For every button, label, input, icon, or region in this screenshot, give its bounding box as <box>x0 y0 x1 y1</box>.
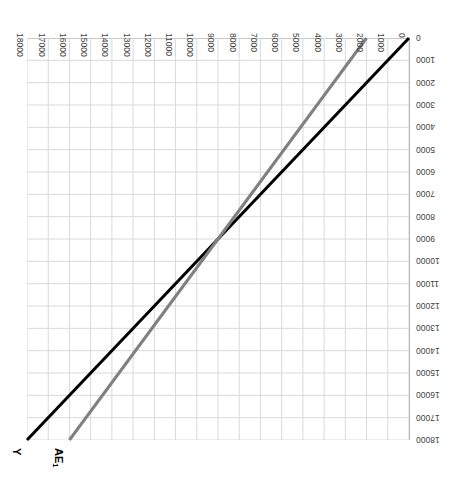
x-tick-label: 5000 <box>292 33 301 52</box>
x-tick-label: 10000 <box>186 33 195 57</box>
y-tick-label: 13000 <box>416 324 454 333</box>
curve-label-subscript: 1 <box>51 463 60 467</box>
x-tick-label: 9000 <box>207 33 216 52</box>
x-tick-label: 0 <box>398 33 407 38</box>
y-tick-label: 1000 <box>416 56 454 65</box>
x-tick-label: 14000 <box>101 33 110 57</box>
y-tick-label: 3000 <box>416 101 454 110</box>
y-tick-label: 18000 <box>416 436 454 445</box>
data-lines <box>27 38 409 440</box>
y-tick-label: 14000 <box>416 346 454 355</box>
x-tick-label: 15000 <box>80 33 89 57</box>
x-tick-label: 12000 <box>143 33 152 57</box>
y-tick-label: 15000 <box>416 369 454 378</box>
plot-area <box>28 38 410 440</box>
y-tick-label: 16000 <box>416 391 454 400</box>
x-tick-label: 18000 <box>16 33 25 57</box>
y-tick-label: 7000 <box>416 190 454 199</box>
curve-label-Y: Y <box>11 448 22 455</box>
y-tick-label: 6000 <box>416 168 454 177</box>
x-tick-label: 1000 <box>377 33 386 52</box>
y-tick-label: 17000 <box>416 413 454 422</box>
y-tick-label: 8000 <box>416 212 454 221</box>
x-tick-label: 8000 <box>228 33 237 52</box>
curve-label-AE1: AE1 <box>53 448 64 467</box>
y-tick-label: 5000 <box>416 145 454 154</box>
x-tick-label: 13000 <box>122 33 131 57</box>
series-line-AE1 <box>69 38 366 440</box>
x-tick-label: 2000 <box>356 33 365 52</box>
y-tick-label: 0 <box>416 34 454 43</box>
x-tick-label: 17000 <box>37 33 46 57</box>
x-tick-label: 3000 <box>334 33 343 52</box>
x-tick-label: 11000 <box>165 33 174 56</box>
x-tick-label: 16000 <box>58 33 67 57</box>
y-tick-label: 2000 <box>416 78 454 87</box>
y-tick-label: 12000 <box>416 302 454 311</box>
y-tick-label: 9000 <box>416 235 454 244</box>
curve-label-text: AE <box>53 448 65 463</box>
x-tick-label: 7000 <box>249 33 258 52</box>
y-tick-label: 11000 <box>416 279 454 288</box>
y-tick-label: 4000 <box>416 123 454 132</box>
curve-label-text: Y <box>11 448 23 455</box>
chart-figure: 1800017000160001500014000130001200011000… <box>0 0 460 502</box>
x-tick-label: 6000 <box>271 33 280 52</box>
y-tick-label: 10000 <box>416 257 454 266</box>
x-tick-label: 4000 <box>313 33 322 52</box>
